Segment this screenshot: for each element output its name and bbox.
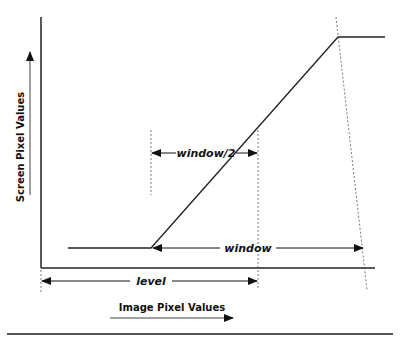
y-axis-label: Screen Pixel Values <box>15 92 26 202</box>
window-half-label: window/2 <box>176 147 235 160</box>
dashed-guide-window-end <box>336 17 367 290</box>
window-level-diagram: window/2 window level Image Pixel Values… <box>0 0 400 340</box>
level-label: level <box>136 275 166 288</box>
x-axis-label: Image Pixel Values <box>119 302 225 313</box>
transfer-function-curve <box>68 37 385 248</box>
window-label: window <box>224 242 272 255</box>
diagram-svg: window/2 window level Image Pixel Values… <box>0 0 400 340</box>
